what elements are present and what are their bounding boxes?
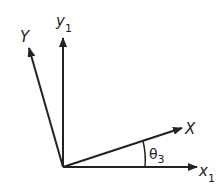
- label-y1: y1: [55, 12, 72, 35]
- label-x1: x1: [198, 162, 215, 185]
- angle-arc-theta3: [143, 141, 145, 167]
- coordinate-rotation-diagram: x1 y1 X Y θ3: [0, 0, 218, 189]
- label-X: X: [184, 120, 196, 138]
- label-Y: Y: [20, 28, 31, 46]
- label-theta3: θ3: [149, 146, 165, 166]
- axis-Y: [29, 48, 63, 167]
